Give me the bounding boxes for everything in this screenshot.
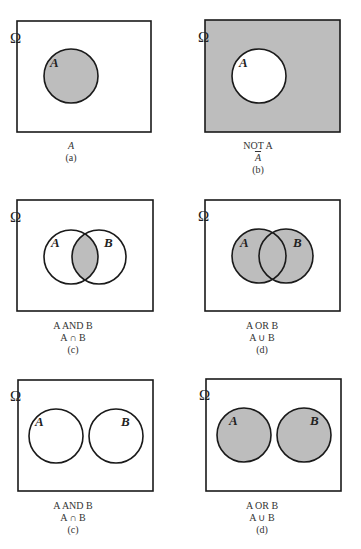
svg-text:A: A	[34, 414, 44, 429]
panel-b	[205, 20, 340, 132]
svg-text:A: A	[50, 235, 60, 250]
panel-d	[205, 200, 340, 311]
svg-text:A: A	[228, 413, 238, 428]
svg-text:A: A	[49, 55, 59, 70]
caption-e: A AND B A ∩ B (c)	[3, 500, 143, 536]
panel-f	[206, 379, 341, 491]
svg-text:Ω: Ω	[10, 388, 21, 404]
panel-a	[17, 21, 151, 132]
venn-diagrams: Ω Ω Ω Ω Ω Ω A A A B A B A B A B	[0, 0, 361, 549]
caption-f: A OR B A ∪ B (d)	[192, 500, 332, 536]
svg-text:B: B	[292, 235, 302, 250]
panel-c	[17, 200, 153, 311]
svg-text:B: B	[103, 235, 113, 250]
svg-text:Ω: Ω	[10, 30, 21, 46]
svg-text:B: B	[309, 413, 319, 428]
svg-text:Ω: Ω	[198, 208, 209, 224]
caption-a: A (a)	[1, 140, 141, 164]
caption-b: NOT A A (b)	[188, 140, 328, 176]
svg-text:A: A	[239, 235, 249, 250]
svg-text:B: B	[120, 414, 130, 429]
svg-text:Ω: Ω	[10, 209, 21, 225]
panel-e	[18, 380, 153, 491]
caption-c: A AND B A ∩ B (c)	[3, 320, 143, 356]
svg-text:Ω: Ω	[199, 387, 210, 403]
caption-d: A OR B A ∪ B (d)	[192, 320, 332, 356]
svg-text:A: A	[238, 55, 248, 70]
svg-text:Ω: Ω	[198, 29, 209, 45]
